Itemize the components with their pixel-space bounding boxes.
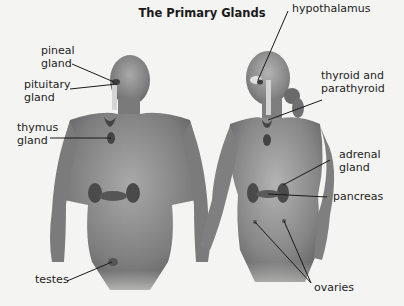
label-ovaries: ovaries bbox=[314, 281, 354, 294]
leader-pineal bbox=[72, 64, 114, 82]
label-testes: testes bbox=[35, 273, 69, 286]
label-pancreas: pancreas bbox=[333, 190, 383, 203]
label-thyroid-parathyroid: thyroid and parathyroid bbox=[321, 69, 385, 95]
diagram: The Primary Glands bbox=[0, 0, 404, 306]
label-thymus-gland: thymus gland bbox=[17, 121, 58, 147]
label-pituitary-gland: pituitary gland bbox=[24, 78, 70, 104]
male-body bbox=[50, 55, 210, 306]
leader-pituitary bbox=[70, 84, 117, 89]
label-adrenal-gland: adrenal gland bbox=[339, 148, 381, 174]
label-pineal-gland: pineal gland bbox=[41, 44, 75, 70]
label-hypothalamus: hypothalamus bbox=[292, 2, 370, 15]
female-body bbox=[200, 51, 334, 306]
